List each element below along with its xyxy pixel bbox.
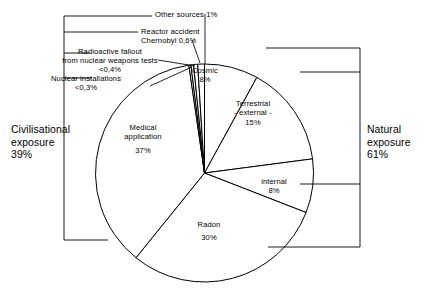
slice-label-internal-name: internal <box>245 177 303 186</box>
slice-label-medical-line1: Medical <box>108 123 178 132</box>
callout-nuclear-installations: Nuclear installations <0,3% <box>31 74 141 92</box>
callout-nuclear-installations-line2: <0,3% <box>31 83 141 92</box>
slice-label-medical-line2: application <box>108 132 178 141</box>
callout-fallout: Radioactive fallout from nuclear weapons… <box>48 47 172 75</box>
callout-fallout-line2: from nuclear weapons tests <box>48 56 172 65</box>
callout-nuclear-installations-line1: Nuclear installations <box>31 74 141 83</box>
bracket-label-natural-value: 61% <box>367 149 425 162</box>
callout-other-sources: Other sources 1% <box>155 10 217 19</box>
slice-label-cosmic-name: Cosmic <box>179 66 231 75</box>
slice-label-radon: Radon 30% <box>181 220 237 243</box>
bracket-label-civilisational-value: 39% <box>11 149 73 162</box>
bracket-label-natural: Natural exposure 61% <box>367 124 425 162</box>
bracket-label-natural-line1: Natural <box>367 124 425 137</box>
slice-label-cosmic: Cosmic 8% <box>179 66 231 85</box>
slice-label-medical: Medical application 37% <box>108 123 178 155</box>
slice-label-internal-value: 8% <box>245 186 303 195</box>
slice-label-internal: internal 8% <box>245 177 303 196</box>
slice-label-radon-value: 30% <box>181 233 237 242</box>
pie-chart-figure: Cosmic 8% Terrestrial - external - 15% i… <box>0 0 427 304</box>
callout-fallout-line1: Radioactive fallout <box>48 47 172 56</box>
bracket-label-natural-line2: exposure <box>367 137 425 150</box>
slice-label-medical-value: 37% <box>108 146 178 155</box>
slice-label-terrestrial: Terrestrial - external - 15% <box>216 99 290 127</box>
slice-label-cosmic-value: 8% <box>179 75 231 84</box>
callout-chernobyl-line1: Reactor accident <box>141 27 200 36</box>
slice-label-terrestrial-line2: - external - <box>216 108 290 117</box>
callout-other-sources-text: Other sources 1% <box>155 10 217 19</box>
pie-slices-group <box>95 64 313 282</box>
callout-chernobyl: Reactor accident Chernobyl 0,6% <box>141 27 200 45</box>
slice-label-terrestrial-value: 15% <box>216 118 290 127</box>
bracket-label-civilisational-line1: Civilisational <box>11 124 73 137</box>
slice-label-terrestrial-line1: Terrestrial <box>216 99 290 108</box>
callout-chernobyl-line2: Chernobyl 0,6% <box>141 36 200 45</box>
bracket-label-civilisational-line2: exposure <box>11 137 73 150</box>
slice-label-radon-name: Radon <box>181 220 237 229</box>
bracket-label-civilisational: Civilisational exposure 39% <box>11 124 73 162</box>
